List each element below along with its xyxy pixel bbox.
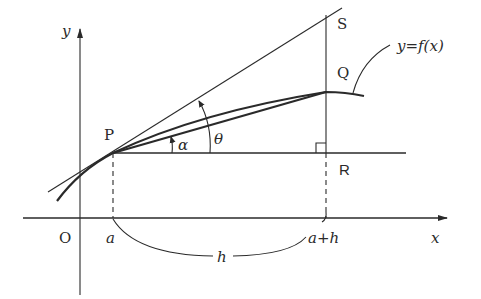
curve-label-leader: [353, 45, 390, 93]
interval-brace-right: [233, 237, 306, 256]
right-angle-marker: [316, 143, 326, 153]
derivative-diagram: y x O P Q R S α θ a a+h h y=f(x): [0, 0, 481, 299]
alpha-arc: [171, 137, 172, 153]
origin-label: O: [59, 229, 71, 247]
tick-a-plus-h: [322, 212, 326, 222]
interval-h-label: h: [217, 248, 227, 266]
alpha-label: α: [178, 136, 188, 154]
tick-a-label: a: [106, 229, 115, 247]
y-axis-label: y: [61, 22, 71, 40]
tick-a-plus-h-label: a+h: [308, 229, 339, 247]
point-p-label: P: [104, 126, 114, 144]
point-q-label: Q: [337, 64, 349, 82]
theta-label: θ: [214, 130, 223, 148]
interval-brace: [113, 219, 213, 256]
curve-label: y=f(x): [396, 37, 444, 55]
point-r-label: R: [339, 161, 350, 178]
x-axis-label: x: [431, 229, 440, 247]
point-s-label: S: [337, 15, 347, 33]
